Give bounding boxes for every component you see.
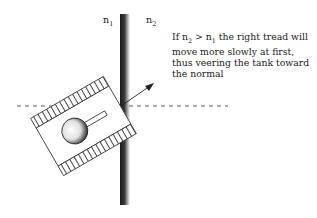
explanation-note: If n2 > n1 the right tread will move mor… — [172, 31, 317, 80]
label-n2: n2 — [146, 14, 156, 28]
arrow-head-icon — [145, 83, 154, 91]
label-n1: n1 — [103, 14, 113, 28]
